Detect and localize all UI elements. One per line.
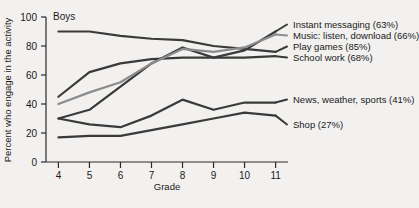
- x-tick-label: 6: [118, 170, 124, 181]
- legend-label: Music: listen, download (66%): [293, 30, 419, 41]
- y-tick-label: 40: [26, 99, 38, 110]
- y-axis-tick-labels: 020406080100: [20, 12, 37, 168]
- y-tick-label: 80: [26, 41, 38, 52]
- x-tick-label: 9: [211, 170, 217, 181]
- x-tick-label: 7: [149, 170, 155, 181]
- legend-leader-line: [276, 100, 287, 103]
- y-axis-title: Percent who engage in the activity: [2, 17, 13, 162]
- legend-leader-line: [276, 47, 287, 52]
- x-tick-label: 5: [87, 170, 93, 181]
- legend-label: School work (68%): [293, 52, 373, 63]
- y-axis-ticks: [41, 17, 46, 162]
- legend-leader-line: [276, 56, 287, 57]
- x-tick-label: 4: [56, 170, 62, 181]
- x-tick-label: 11: [270, 170, 281, 181]
- legend-label: Shop (27%): [293, 119, 343, 130]
- chart-legend: Instant messaging (63%)Music: listen, do…: [276, 19, 419, 130]
- series-line: [58, 32, 275, 119]
- y-tick-label: 20: [26, 128, 38, 139]
- legend-label: News, weather, sports (41%): [293, 94, 414, 105]
- y-tick-label: 0: [31, 157, 37, 168]
- legend-leader-line: [276, 116, 287, 125]
- legend-leader-line: [276, 34, 287, 35]
- x-axis-ticks: [58, 162, 275, 168]
- x-axis-tick-labels: 4567891011: [56, 170, 282, 181]
- panel-title: Boys: [53, 11, 75, 22]
- legend-label: Play games (85%): [293, 41, 371, 52]
- line-chart: 020406080100 4567891011 Percent who enga…: [0, 0, 419, 208]
- chart-container: 020406080100 4567891011 Percent who enga…: [0, 0, 419, 208]
- y-tick-label: 60: [26, 70, 38, 81]
- series-line: [58, 56, 275, 97]
- x-axis-title: Grade: [154, 181, 180, 192]
- y-tick-label: 100: [20, 12, 37, 23]
- series-lines: [58, 32, 275, 138]
- x-tick-label: 8: [180, 170, 186, 181]
- legend-label: Instant messaging (63%): [293, 19, 398, 30]
- x-tick-label: 10: [239, 170, 251, 181]
- series-line: [58, 34, 275, 104]
- legend-leader-line: [276, 25, 287, 32]
